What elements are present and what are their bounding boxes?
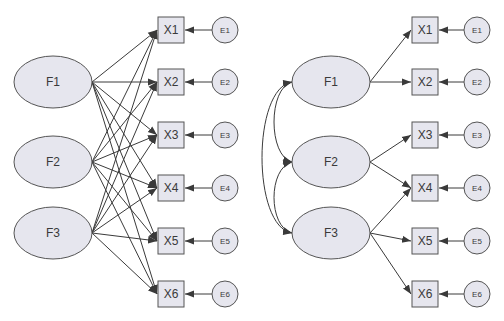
error-label: E3 <box>472 131 482 140</box>
covariance-f1-f3 <box>262 82 292 233</box>
indicator-node-x3: X3 <box>412 122 438 148</box>
indicator-label: X5 <box>164 234 179 248</box>
indicator-node-x2: X2 <box>412 69 438 95</box>
loading-arrow-f3-x1 <box>92 30 157 233</box>
error-node-e2: E2 <box>212 69 238 95</box>
indicator-node-x1: X1 <box>158 17 184 43</box>
indicator-node-x4: X4 <box>158 175 184 201</box>
error-label: E3 <box>220 131 230 140</box>
indicator-node-x2: X2 <box>158 69 184 95</box>
factor-node-f3: F3 <box>292 207 370 259</box>
indicator-label: X3 <box>418 128 433 142</box>
error-node-e4: E4 <box>212 175 238 201</box>
diagram-left: F1F2F3X1X2X3X4X5X6E1E2E3E4E5E6 <box>14 17 238 307</box>
error-label: E5 <box>220 237 230 246</box>
loading-arrow-f2-x3 <box>370 135 411 162</box>
error-label: E4 <box>472 184 482 193</box>
indicator-node-x6: X6 <box>412 281 438 307</box>
error-node-e1: E1 <box>212 17 238 43</box>
indicator-label: X4 <box>164 181 179 195</box>
indicator-label: X1 <box>418 23 433 37</box>
indicator-label: X1 <box>164 23 179 37</box>
error-node-e2: E2 <box>464 69 490 95</box>
edges-left <box>92 30 212 294</box>
indicator-node-x3: X3 <box>158 122 184 148</box>
loading-arrow-f1-x1 <box>370 30 411 82</box>
error-label: E2 <box>220 78 230 87</box>
factor-label: F2 <box>46 155 60 169</box>
error-node-e4: E4 <box>464 175 490 201</box>
error-node-e3: E3 <box>212 122 238 148</box>
indicator-node-x1: X1 <box>412 17 438 43</box>
loading-arrow-f2-x4 <box>370 162 411 188</box>
indicator-label: X2 <box>418 75 433 89</box>
error-node-e1: E1 <box>464 17 490 43</box>
factor-node-f2: F2 <box>292 136 370 188</box>
indicator-label: X6 <box>164 287 179 301</box>
covariance-f1-f2 <box>274 82 292 162</box>
loading-arrow-f1-x6 <box>92 82 157 294</box>
factor-node-f2: F2 <box>14 136 92 188</box>
indicator-node-x4: X4 <box>412 175 438 201</box>
indicator-node-x5: X5 <box>158 228 184 254</box>
indicator-node-x5: X5 <box>412 228 438 254</box>
sem-diagram-figure: F1F2F3X1X2X3X4X5X6E1E2E3E4E5E6F1F2F3X1X2… <box>0 0 504 321</box>
error-label: E6 <box>220 290 230 299</box>
loading-arrow-f1-x3 <box>92 82 157 135</box>
indicator-label: X3 <box>164 128 179 142</box>
edges-layer <box>92 30 464 294</box>
indicator-label: X6 <box>418 287 433 301</box>
nodes-layer: F1F2F3X1X2X3X4X5X6E1E2E3E4E5E6F1F2F3X1X2… <box>14 17 490 307</box>
error-label: E1 <box>220 26 230 35</box>
indicator-label: X4 <box>418 181 433 195</box>
loading-arrow-f1-x4 <box>92 82 157 188</box>
factor-node-f1: F1 <box>292 56 370 108</box>
factor-label: F1 <box>46 75 60 89</box>
factor-label: F3 <box>324 226 338 240</box>
error-node-e6: E6 <box>464 281 490 307</box>
factor-label: F1 <box>324 75 338 89</box>
loading-arrow-f3-x5 <box>370 233 411 241</box>
error-label: E4 <box>220 184 230 193</box>
factor-label: F2 <box>324 155 338 169</box>
error-node-e3: E3 <box>464 122 490 148</box>
error-label: E1 <box>472 26 482 35</box>
loading-arrow-f1-x1 <box>92 30 157 82</box>
diagram-canvas: F1F2F3X1X2X3X4X5X6E1E2E3E4E5E6F1F2F3X1X2… <box>0 0 504 321</box>
indicator-label: X2 <box>164 75 179 89</box>
loading-arrow-f2-x6 <box>92 162 157 294</box>
loading-arrow-f3-x6 <box>370 233 411 294</box>
indicator-label: X5 <box>418 234 433 248</box>
error-label: E5 <box>472 237 482 246</box>
loading-arrow-f3-x5 <box>92 233 157 241</box>
loading-arrow-f2-x1 <box>92 30 157 162</box>
loading-arrow-f3-x4 <box>370 188 411 233</box>
error-node-e6: E6 <box>212 281 238 307</box>
factor-label: F3 <box>46 226 60 240</box>
error-label: E2 <box>472 78 482 87</box>
error-node-e5: E5 <box>212 228 238 254</box>
indicator-node-x6: X6 <box>158 281 184 307</box>
error-node-e5: E5 <box>464 228 490 254</box>
factor-node-f1: F1 <box>14 56 92 108</box>
error-label: E6 <box>472 290 482 299</box>
factor-node-f3: F3 <box>14 207 92 259</box>
